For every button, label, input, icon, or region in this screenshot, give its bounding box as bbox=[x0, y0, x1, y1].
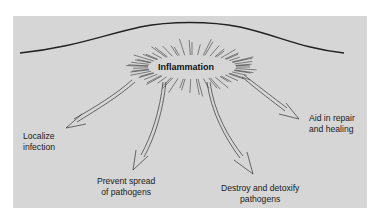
outcome-line: Localize bbox=[23, 131, 55, 142]
outcome-line: and healing bbox=[309, 124, 355, 135]
arrow-aid-repair-icon bbox=[242, 75, 299, 119]
skin-surface-curve bbox=[20, 23, 344, 54]
arrow-prevent-spread-icon bbox=[133, 82, 166, 170]
outcome-line: infection bbox=[23, 142, 55, 153]
outcome-destroy-detoxify: Destroy and detoxify pathogens bbox=[221, 183, 299, 205]
outcome-line: of pathogens bbox=[97, 187, 155, 198]
inflammation-label: Inflammation bbox=[158, 62, 214, 73]
outcome-line: pathogens bbox=[221, 194, 299, 205]
outcome-line: Prevent spread bbox=[97, 176, 155, 187]
outcome-line: Destroy and detoxify bbox=[221, 183, 299, 194]
arrow-destroy-detoxify-icon bbox=[207, 82, 253, 174]
inflammation-diagram-art bbox=[0, 0, 376, 218]
outcome-aid-repair: Aid in repair and healing bbox=[309, 113, 355, 135]
outcome-prevent-spread: Prevent spread of pathogens bbox=[97, 176, 155, 198]
outcome-localize-infection: Localize infection bbox=[23, 131, 55, 153]
arrow-localize-infection-icon bbox=[66, 80, 135, 128]
outcome-line: Aid in repair bbox=[309, 113, 355, 124]
